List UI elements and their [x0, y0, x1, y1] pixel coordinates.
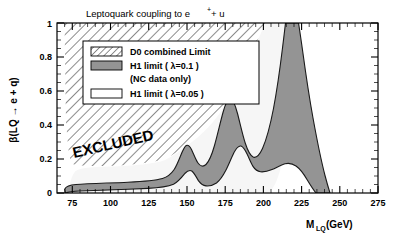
legend-label-2: H1 limit ( λ=0.05 ) [130, 89, 204, 99]
x-tick-label-3: 150 [179, 198, 194, 208]
y-axis-label: β(LQ → e + q) [8, 77, 19, 142]
x-axis-label-unit: (GeV) [326, 219, 353, 230]
x-tick-labels: 75 100 125 150 175 200 225 250 275 [67, 198, 385, 208]
y-tick-label-3: 0.6 [39, 86, 52, 96]
leptoquark-exclusion-plot: D0 combined Limit H1 limit ( λ=0.1 ) (NC… [0, 0, 396, 241]
legend-swatch-hatched [91, 47, 122, 56]
x-tick-label-2: 125 [141, 198, 156, 208]
x-tick-label-8: 275 [370, 198, 385, 208]
x-tick-label-6: 225 [294, 198, 309, 208]
x-tick-label-5: 200 [256, 198, 271, 208]
y-tick-label-2: 0.4 [39, 120, 52, 130]
y-tick-label-4: 0.8 [39, 52, 52, 62]
y-tick-label-0: 0 [47, 188, 52, 198]
title-tail: + u [211, 8, 224, 19]
x-tick-label-0: 75 [67, 198, 77, 208]
y-tick-label-5: 1 [47, 19, 52, 29]
x-tick-label-7: 250 [332, 198, 347, 208]
y-tick-label-1: 0.2 [39, 154, 52, 164]
legend-swatch-darkgray [91, 61, 122, 70]
legend-label-1: H1 limit ( λ=0.1 ) [130, 61, 199, 71]
legend-swatch-white [91, 89, 122, 98]
x-axis-label-main: M [306, 219, 314, 230]
legend: D0 combined Limit H1 limit ( λ=0.1 ) (NC… [83, 41, 259, 104]
x-tick-label-1: 100 [103, 198, 118, 208]
legend-sublabel-1: (NC data only) [130, 74, 191, 84]
x-tick-label-4: 175 [218, 198, 233, 208]
legend-label-0: D0 combined Limit [130, 47, 211, 57]
title-main: Leptoquark coupling to e [86, 8, 190, 19]
x-axis-label-sub: LQ [316, 225, 326, 233]
